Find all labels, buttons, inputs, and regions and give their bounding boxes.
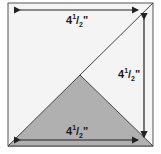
bottom-dimension-label: 41/2" — [66, 124, 88, 139]
right-dimension-label: 41/2" — [118, 67, 140, 82]
top-dimension-label: 41/2" — [66, 13, 88, 28]
